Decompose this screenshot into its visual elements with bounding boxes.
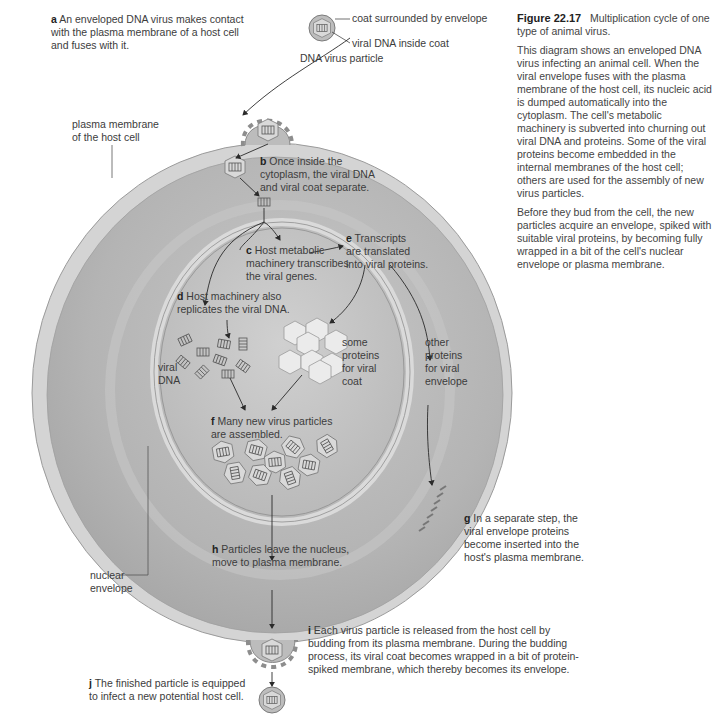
figure-number: Figure 22.17 — [517, 12, 581, 24]
uncoating-particle — [225, 156, 245, 178]
figure-caption: Figure 22.17 Multiplication cycle of one… — [517, 12, 712, 277]
caption-paragraph-1: This diagram shows an enveloped DNA viru… — [517, 44, 712, 200]
step-letter: a — [51, 13, 57, 25]
step-g: g In a separate step, the viral envelope… — [464, 512, 584, 564]
label-viral-dna: viral DNA — [158, 361, 180, 387]
caption-paragraph-2: Before they bud from the cell, the new p… — [517, 206, 712, 271]
label-envelope-proteins: other proteins for viral envelope — [425, 336, 468, 388]
step-a: a An enveloped DNA virus makes contact w… — [51, 13, 244, 52]
legend-dna: viral DNA inside coat — [352, 37, 449, 50]
legend-particle — [309, 15, 335, 41]
step-d: d Host machinery also replicates the vir… — [177, 290, 290, 316]
figure-title: Figure 22.17 Multiplication cycle of one… — [517, 12, 712, 38]
step-j: j The finished particle is equipped to i… — [89, 677, 245, 703]
finished-particle — [259, 687, 285, 713]
label-nuclear-envelope: nuclear envelope — [90, 569, 133, 595]
label-plasma-membrane: plasma membrane of the host cell — [72, 118, 159, 144]
legend-coat: coat surrounded by envelope — [352, 12, 487, 25]
step-c: c Host metabolic machinery transcribes t… — [246, 244, 349, 283]
step-e: e Transcripts are translated into viral … — [346, 232, 428, 271]
step-i: i Each virus particle is released from t… — [308, 624, 579, 676]
step-b: b Once inside the cytoplasm, the viral D… — [260, 155, 375, 194]
exit-bud — [248, 639, 296, 667]
legend-caption: DNA virus particle — [300, 52, 383, 65]
step-h: h Particles leave the nucleus, move to p… — [212, 543, 349, 569]
step-f: f Many new virus particles are assembled… — [211, 415, 332, 441]
entry-bud — [243, 119, 292, 146]
label-coat-proteins: some proteins for viral coat — [342, 336, 379, 388]
